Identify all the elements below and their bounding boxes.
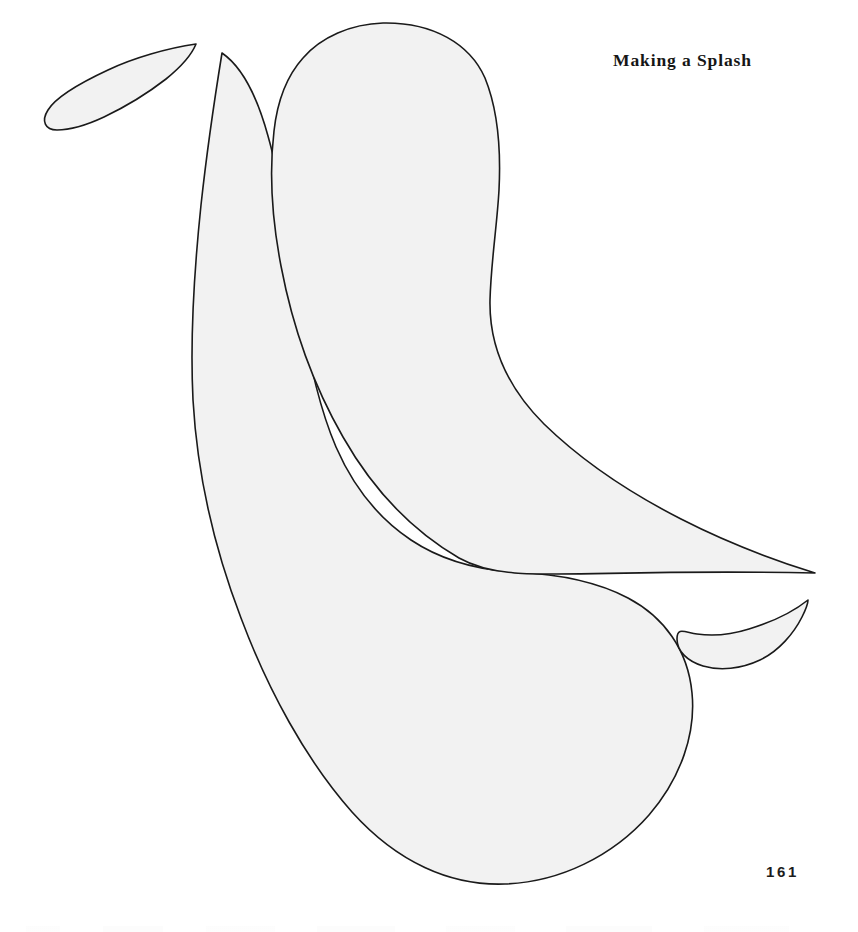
page-title: Making a Splash <box>613 52 752 70</box>
scan-edge-artifact <box>0 926 858 932</box>
pattern-shapes-canvas <box>0 0 858 932</box>
pattern-page: Making a Splash 161 <box>0 0 858 932</box>
page-number: 161 <box>766 864 799 879</box>
